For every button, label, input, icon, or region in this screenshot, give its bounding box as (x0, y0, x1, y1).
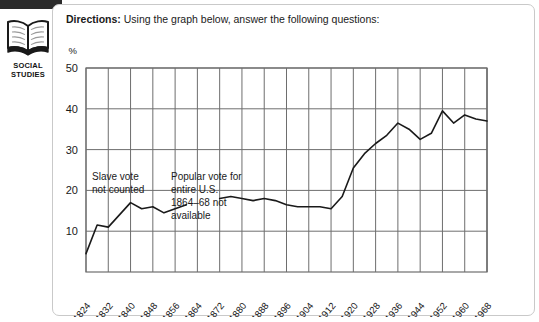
svg-text:30: 30 (66, 144, 78, 156)
svg-text:20: 20 (66, 184, 78, 196)
directions-line: Directions: Using the graph below, answe… (66, 13, 379, 25)
svg-text:1832: 1832 (93, 300, 115, 317)
svg-text:1968: 1968 (472, 300, 494, 317)
svg-text:1928: 1928 (360, 300, 382, 317)
directions-text: Using the graph below, answer the follow… (121, 13, 380, 25)
svg-text:1872: 1872 (204, 300, 226, 317)
chart-svg: % 1020304050 182418321840184818561864187… (58, 42, 528, 317)
svg-text:1912: 1912 (316, 300, 338, 317)
svg-text:1848: 1848 (137, 300, 159, 317)
directions-label: Directions: (66, 13, 121, 25)
y-axis-title: % (69, 45, 78, 56)
svg-text:1864: 1864 (182, 300, 204, 317)
svg-text:1856: 1856 (160, 300, 182, 317)
svg-text:40: 40 (66, 103, 78, 115)
voter-turnout-line-chart: % 1020304050 182418321840184818561864187… (58, 42, 528, 317)
x-axis-tick-labels: 1824183218401848185618641872188018881896… (71, 300, 494, 317)
vertical-gridlines (86, 68, 487, 272)
svg-text:1824: 1824 (71, 300, 93, 317)
svg-text:1920: 1920 (338, 300, 360, 317)
svg-text:%: % (69, 45, 78, 56)
svg-text:1896: 1896 (271, 300, 293, 317)
svg-text:Slave votenot counted: Slave votenot counted (92, 171, 144, 195)
svg-text:1840: 1840 (115, 300, 137, 317)
svg-text:1936: 1936 (382, 300, 404, 317)
svg-text:1904: 1904 (293, 300, 315, 317)
svg-text:1952: 1952 (427, 300, 449, 317)
svg-text:Popular vote forentire U.S.186: Popular vote forentire U.S.1864–68 notav… (171, 171, 242, 221)
svg-text:1888: 1888 (249, 300, 271, 317)
svg-text:50: 50 (66, 62, 78, 74)
svg-text:10: 10 (66, 225, 78, 237)
subject-badge: SOCIAL STUDIES (2, 18, 54, 79)
subject-label: SOCIAL STUDIES (2, 61, 54, 79)
svg-text:1880: 1880 (226, 300, 248, 317)
svg-text:1960: 1960 (449, 300, 471, 317)
svg-text:1944: 1944 (405, 300, 427, 317)
y-axis-tick-labels: 1020304050 (66, 62, 78, 237)
open-book-icon (5, 18, 51, 58)
